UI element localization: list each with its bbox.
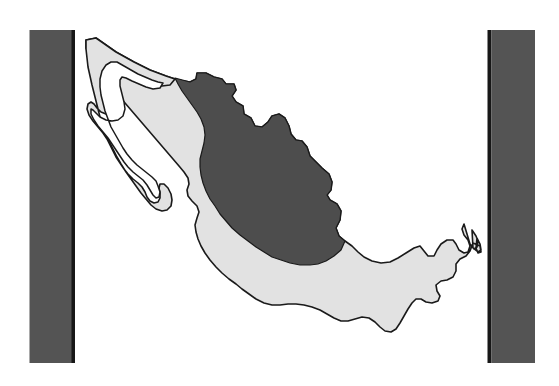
left-margin-bar-fill [30, 30, 74, 363]
figure-root: Outline map of Mexico with the northern … [0, 0, 559, 386]
left-margin-bar-inner-edge [72, 30, 76, 363]
right-margin-bar-inner-edge [488, 30, 492, 363]
mexico-map-figure [0, 0, 559, 386]
right-margin-bar [488, 30, 536, 363]
right-margin-bar-fill [492, 30, 536, 363]
left-margin-bar [30, 30, 76, 363]
